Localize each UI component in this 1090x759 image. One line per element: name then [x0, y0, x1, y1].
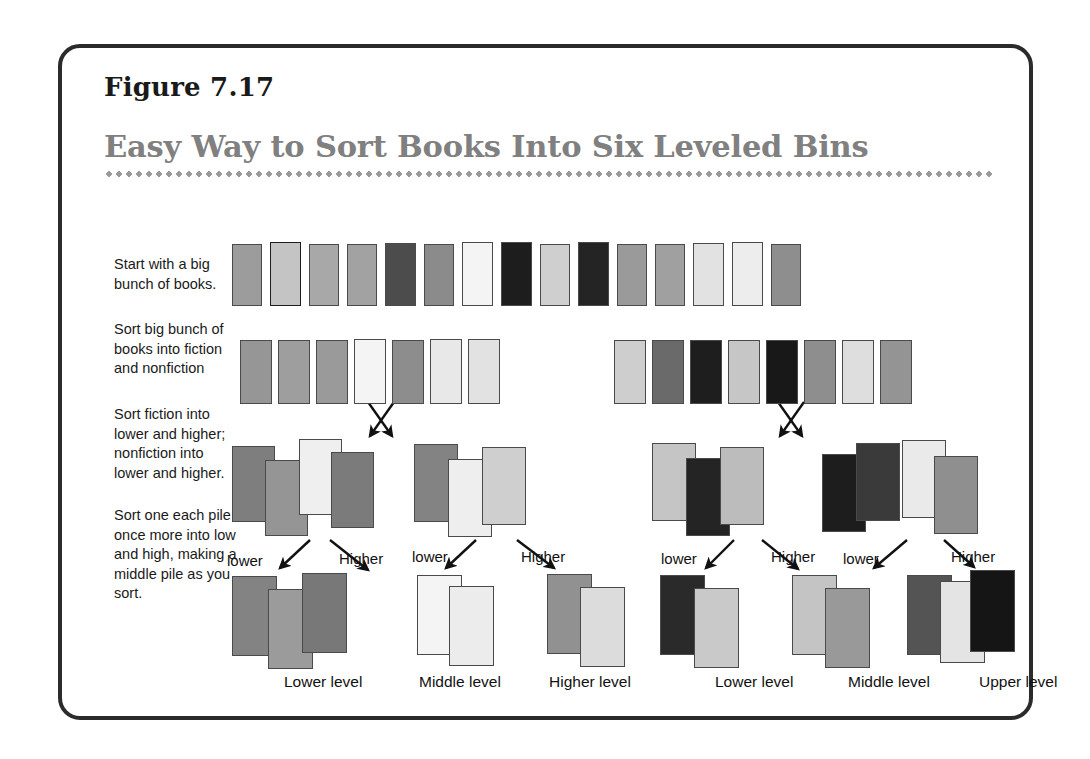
book	[462, 242, 493, 306]
book	[732, 242, 763, 306]
book	[655, 244, 685, 306]
book	[316, 340, 348, 404]
book	[934, 456, 978, 534]
level-label: Upper level	[979, 673, 1057, 691]
book	[694, 588, 739, 668]
arrow-nonfiction-higher-to-middle-bin	[874, 540, 907, 568]
book	[690, 340, 722, 404]
book	[424, 244, 454, 306]
step-text-4: Sort one each pile once more into low an…	[114, 506, 242, 604]
flow-label: Higher	[951, 548, 995, 565]
nonfiction-split-cross-icon	[778, 402, 804, 436]
book	[385, 243, 416, 306]
book	[347, 244, 377, 306]
flow-label: Higher	[771, 548, 815, 565]
book	[766, 340, 798, 404]
book	[580, 587, 625, 667]
book	[825, 588, 870, 668]
book	[232, 244, 262, 306]
level-label: Lower level	[284, 673, 362, 691]
figure-card: Figure 7.17 Easy Way to Sort Books Into …	[58, 44, 1033, 720]
book	[720, 447, 764, 525]
flow-label: lower	[661, 550, 697, 567]
book	[309, 244, 339, 306]
level-label: Higher level	[549, 673, 631, 691]
book	[652, 340, 684, 404]
flow-label: Higher	[339, 550, 383, 567]
step-text-1: Start with a big bunch of books.	[114, 255, 242, 294]
book	[270, 242, 301, 306]
level-label: Middle level	[848, 673, 930, 691]
book	[693, 243, 724, 306]
figure-title: Easy Way to Sort Books Into Six Leveled …	[104, 128, 869, 164]
book	[331, 452, 374, 528]
book	[842, 340, 874, 404]
arrow-fiction-lower-to-lower-bin	[280, 540, 310, 568]
level-label: Lower level	[715, 673, 793, 691]
flow-label: Higher	[521, 548, 565, 565]
step-text-2: Sort big bunch of books into fiction and…	[114, 320, 242, 379]
book	[449, 586, 494, 666]
book	[617, 244, 647, 306]
arrow-fiction-higher-to-middle-bin	[446, 540, 476, 568]
book	[970, 570, 1015, 652]
figure-number: Figure 7.17	[104, 72, 274, 102]
book	[771, 244, 801, 306]
book	[430, 339, 462, 404]
arrow-nonfiction-lower-to-lower-bin	[706, 540, 734, 568]
book	[578, 242, 609, 306]
level-label: Middle level	[419, 673, 501, 691]
book	[354, 339, 386, 404]
book	[482, 447, 526, 525]
flow-label: lower	[412, 548, 448, 565]
book	[240, 340, 272, 404]
book	[728, 340, 760, 404]
title-dotted-divider	[104, 171, 994, 177]
book	[278, 340, 310, 404]
book	[392, 340, 424, 404]
book	[880, 340, 912, 404]
fiction-split-cross-icon	[368, 402, 394, 436]
book	[501, 242, 532, 306]
book	[614, 340, 646, 404]
book	[856, 443, 900, 521]
step-text-3: Sort fiction into lower and higher; nonf…	[114, 405, 242, 483]
flow-label: lower	[843, 550, 879, 567]
book	[804, 340, 836, 404]
book	[468, 339, 500, 404]
book	[540, 244, 570, 306]
flow-label: lower	[227, 552, 263, 569]
book	[302, 573, 347, 653]
